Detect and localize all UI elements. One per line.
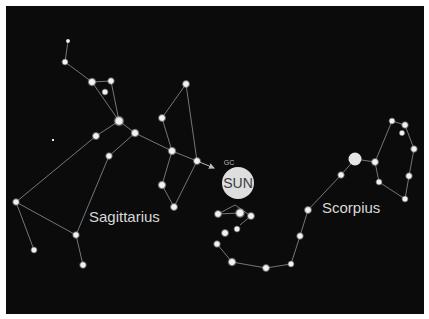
constellation-line [16,136,96,202]
star [216,212,220,216]
star [403,123,407,127]
star [116,118,121,123]
star [63,60,67,64]
star [160,116,164,120]
star [215,242,219,246]
star [412,147,416,151]
star [403,197,407,201]
star [133,131,138,136]
constellation-line [291,236,300,264]
star [172,205,176,209]
star [103,90,107,94]
constellation-diagram: SUN GC Sagittarius Scorpius [0,0,429,319]
star [184,82,188,86]
star [339,173,343,177]
constellation-line [16,202,34,250]
star [264,266,268,270]
sun-label: SUN [223,175,253,191]
scorpius-label: Scorpius [322,199,380,216]
constellation-line [76,235,83,265]
star [94,134,98,138]
star [67,40,69,42]
constellation-line [109,133,135,156]
star [298,234,302,238]
star [390,119,394,123]
star [160,183,165,188]
star [32,248,36,252]
constellation-line [16,202,76,235]
star [14,200,18,204]
star [230,260,235,265]
star [90,80,95,85]
star [400,131,403,134]
antares-star [349,153,362,166]
constellation-line [186,84,197,161]
galactic-center-label: GC [224,159,235,166]
sun-marker: SUN [222,167,254,199]
star [235,227,239,231]
constellation-line [135,133,172,151]
star [373,160,377,164]
star [306,208,310,212]
star [289,262,293,266]
constellation-line [174,161,197,207]
constellation-line [375,121,392,162]
star [223,231,227,235]
constellation-line [162,84,186,118]
constellation-line [65,62,92,82]
constellation-line [162,118,172,151]
star [407,174,411,178]
star [195,159,199,163]
star [74,233,78,237]
star [249,214,253,218]
star [81,263,85,267]
constellation-line [232,262,266,268]
star [237,210,242,215]
star [52,139,53,140]
star [107,154,111,158]
constellation-line [379,182,405,199]
sagittarius-label: Sagittarius [89,208,160,225]
star [377,180,381,184]
star [109,79,113,83]
constellation-line [162,151,172,185]
star [170,149,175,154]
